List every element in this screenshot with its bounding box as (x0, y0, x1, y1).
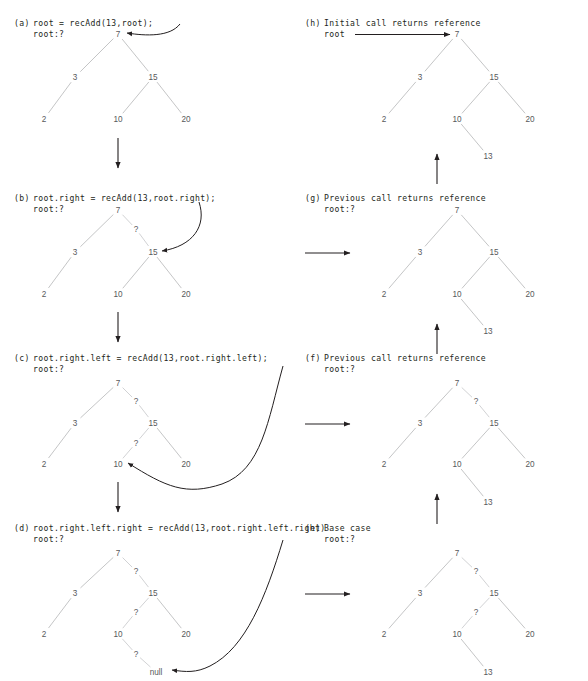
tree-node-a-20: 20 (181, 115, 191, 124)
question-mark-e-0: ? (474, 567, 479, 576)
tree-edge-e-7-3 (425, 558, 453, 588)
tree-edge-h-10-13 (461, 124, 483, 150)
tree-node-f-15: 15 (489, 419, 499, 428)
question-mark-d-2: ? (134, 650, 139, 659)
tree-edge-b-3-2 (48, 257, 71, 288)
captions-layer: (a)root = recAdd(13,root);root:?(b)root.… (14, 18, 486, 544)
tree-edge-h-3-2 (389, 82, 416, 113)
tree-node-f-2: 2 (382, 460, 387, 469)
tree-node-f-10: 10 (452, 460, 462, 469)
question-edge-lower-d-2 (140, 658, 150, 667)
panel-label-f: (f) (305, 353, 321, 363)
tree-edge-d-15-20 (157, 598, 181, 628)
tree-edge-f-15-10 (462, 428, 490, 459)
tree-node-d-20: 20 (181, 630, 191, 639)
tree-node-e-10: 10 (452, 630, 462, 639)
tree-node-e-15: 15 (489, 589, 499, 598)
tree-edge-b-15-20 (157, 257, 181, 288)
root-label-f: root:? (324, 364, 355, 374)
tree-edge-h-15-10 (462, 82, 490, 113)
tree-node-g-2: 2 (382, 290, 387, 299)
root-label-d: root:? (33, 534, 64, 544)
tree-node-c-3: 3 (73, 419, 78, 428)
tree-edge-e-15-20 (498, 598, 525, 628)
tree-edge-e-10-13 (461, 639, 483, 666)
pointer-arrow-b (162, 202, 201, 251)
tree-edge-a-3-2 (48, 82, 71, 113)
tree-node-h-13: 13 (483, 152, 493, 161)
question-edge-upper-e-1 (480, 598, 490, 608)
tree-node-b-10: 10 (113, 290, 123, 299)
panel-label-e: (e) (305, 523, 321, 533)
tree-edge-a-7-15 (122, 39, 148, 71)
tree-node-h-20: 20 (525, 115, 535, 124)
tree-edge-g-7-15 (461, 215, 489, 246)
question-edge-upper-d-0 (123, 558, 133, 568)
tree-edge-f-10-13 (461, 469, 483, 496)
root-label-g: root:? (324, 204, 355, 214)
panel-label-g: (g) (305, 193, 321, 203)
tree-node-h-3: 3 (418, 73, 423, 82)
tree-node-b-20: 20 (181, 290, 191, 299)
tree-node-b-15: 15 (148, 248, 158, 257)
panel-caption-e: Base case (324, 523, 371, 533)
tree-node-c-15: 15 (148, 419, 158, 428)
tree-edge-h-15-20 (498, 82, 525, 113)
question-edge-upper-e-0 (462, 557, 472, 567)
tree-node-g-7: 7 (455, 206, 460, 215)
tree-edge-g-15-10 (462, 257, 490, 288)
tree-edge-g-15-20 (498, 257, 525, 288)
question-mark-f-0: ? (474, 397, 479, 406)
pointer-arrow-d (172, 540, 283, 671)
question-mark-d-1: ? (134, 608, 139, 617)
tree-node-g-15: 15 (489, 248, 499, 257)
question-edge-lower-e-0 (479, 575, 489, 587)
tree-node-a-10: 10 (113, 115, 123, 124)
tree-node-g-13: 13 (483, 327, 493, 336)
question-edge-upper-c-1 (140, 428, 149, 439)
question-mark-c-0: ? (134, 397, 139, 406)
pointer-arrows-layer (127, 24, 450, 671)
tree-edge-h-7-3 (425, 39, 453, 71)
tree-edge-f-3-2 (389, 428, 416, 458)
question-edge-upper-f-0 (462, 387, 472, 397)
tree-edge-c-7-3 (80, 387, 113, 417)
tree-node-d-10: 10 (113, 630, 123, 639)
tree-edge-c-3-2 (49, 428, 72, 458)
tree-edge-c-15-20 (157, 428, 181, 458)
tree-node-g-3: 3 (418, 248, 423, 257)
tree-node-d-7: 7 (116, 549, 121, 558)
panel-caption-b: root.right = recAdd(13,root.right); (33, 193, 216, 203)
panel-caption-f: Previous call returns reference (324, 353, 486, 363)
tree-node-a-2: 2 (42, 115, 47, 124)
question-mark-d-0: ? (134, 567, 139, 576)
tree-node-b-3: 3 (73, 248, 78, 257)
tree-edge-a-15-20 (157, 82, 181, 113)
figure-container: 731521020731521020731521020731521020null… (0, 0, 588, 681)
question-mark-e-1: ? (474, 608, 479, 617)
panel-label-d: (d) (14, 523, 30, 533)
tree-node-f-3: 3 (418, 419, 423, 428)
panel-caption-h: Initial call returns reference (324, 18, 481, 28)
tree-node-h-15: 15 (489, 73, 499, 82)
root-label-a: root:? (33, 29, 64, 39)
tree-edge-g-3-2 (389, 257, 416, 288)
root-label-c: root:? (33, 364, 64, 374)
tree-edge-b-7-3 (80, 215, 113, 247)
tree-edge-f-15-20 (498, 428, 525, 458)
tree-edge-h-7-15 (461, 39, 489, 71)
panel-label-a: (a) (14, 18, 30, 28)
tree-node-f-7: 7 (455, 379, 460, 388)
question-edge-lower-d-1 (123, 616, 133, 628)
panel-caption-d: root.right.left.right = recAdd(13,root.r… (33, 523, 325, 533)
tree-node-e-13: 13 (483, 668, 493, 677)
tree-edge-g-7-3 (425, 215, 453, 246)
question-edge-lower-e-1 (462, 616, 473, 628)
root-label-b: root:? (33, 204, 64, 214)
tree-edge-d-3-2 (49, 598, 72, 628)
panel-caption-c: root.right.left = recAdd(13,root.right.l… (33, 353, 268, 363)
panel-caption-a: root = recAdd(13,root); (33, 18, 153, 28)
tree-node-a-3: 3 (73, 73, 78, 82)
tree-edge-a-15-10 (123, 82, 149, 113)
tree-node-d-3: 3 (73, 589, 78, 598)
